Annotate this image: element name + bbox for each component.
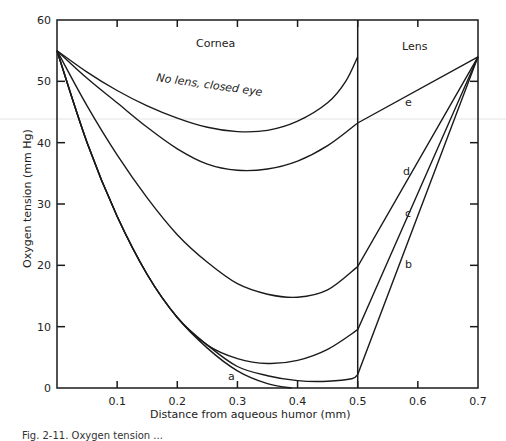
curve-e xyxy=(57,51,478,171)
curve-label-b: b xyxy=(405,258,412,271)
curve-b xyxy=(57,51,478,382)
y-tick-label: 50 xyxy=(37,75,51,88)
curve-label-a: a xyxy=(228,370,235,383)
x-tick-label: 0.6 xyxy=(409,395,427,408)
curve-label-e: e xyxy=(405,96,412,109)
y-tick-label: 10 xyxy=(37,321,51,334)
curve-d xyxy=(57,51,478,298)
y-tick-label: 40 xyxy=(37,137,51,150)
x-tick-label: 0.7 xyxy=(469,395,487,408)
x-tick-label: 0.1 xyxy=(108,395,126,408)
y-tick-label: 30 xyxy=(37,198,51,211)
y-tick-label: 60 xyxy=(37,14,51,27)
figure-caption: Fig. 2-11. Oxygen tension ... xyxy=(22,430,163,441)
curve-label-d: d xyxy=(403,165,410,178)
x-tick-label: 0.4 xyxy=(289,395,307,408)
region-label-lens: Lens xyxy=(402,40,428,53)
curve-label-c: c xyxy=(405,207,411,220)
curve-c xyxy=(57,51,478,364)
x-axis-title: Distance from aqueous humor (mm) xyxy=(150,408,351,421)
plot-border xyxy=(57,20,478,388)
plot-frame xyxy=(57,20,478,388)
x-tick-label: 0.3 xyxy=(229,395,247,408)
region-label-cornea: Cornea xyxy=(196,37,235,50)
curve-a xyxy=(57,51,292,388)
x-tick-label: 0.2 xyxy=(169,395,187,408)
y-tick-label: 0 xyxy=(44,382,51,395)
x-tick-label: 0.5 xyxy=(349,395,367,408)
y-tick-label: 20 xyxy=(37,259,51,272)
y-axis-title: Oxygen tension (mm Hg) xyxy=(21,129,34,268)
curve-label-no-lens: No lens, closed eye xyxy=(156,71,264,99)
data-curves xyxy=(57,51,478,388)
